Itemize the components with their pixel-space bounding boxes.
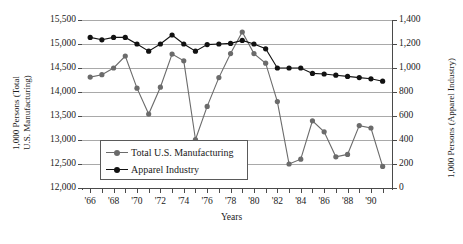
x-axis-tick-mark [348,189,349,193]
x-axis-tick-label: '86 [319,196,330,206]
data-point [357,75,362,80]
x-axis-tick-mark [301,189,302,193]
data-point [251,51,256,56]
y-axis-right-tick-label: 200 [399,159,413,169]
data-point [345,152,350,157]
data-point [310,71,315,76]
data-point [146,49,151,54]
data-point [263,46,268,51]
y-axis-right-tick-mark [393,140,397,141]
y-axis-left-tick-mark [78,116,82,117]
data-point [134,86,139,91]
series-line-1 [90,35,382,81]
data-point [251,41,256,46]
data-point [205,104,210,109]
data-point [99,37,104,42]
x-axis-tick-label: '88 [342,196,353,206]
y-axis-right-tick-mark [393,44,397,45]
data-point [286,65,291,70]
x-axis-tick-label: '90 [365,196,376,206]
data-point [111,65,116,70]
x-axis-tick-mark [160,189,161,193]
data-point [193,49,198,54]
x-axis-tick-mark [137,189,138,193]
y-axis-left-tick-label: 13,500 [50,111,76,121]
x-axis-tick-mark [172,189,173,193]
x-axis-tick-mark [195,189,196,193]
x-axis-tick-label: '70 [131,196,142,206]
x-axis-tick-mark [207,189,208,193]
y-axis-left-tick-label: 15,500 [50,15,76,25]
legend-marker-icon-1 [106,165,128,175]
x-axis-tick-mark [289,189,290,193]
x-axis-tick-label: '76 [202,196,213,206]
legend-label-1: Apparel Industry [131,165,199,175]
y-axis-right-tick-mark [393,20,397,21]
x-axis-tick-mark [383,189,384,193]
data-point [205,42,210,47]
x-axis-tick-mark [219,189,220,193]
data-point [275,65,280,70]
data-point [275,99,280,104]
x-axis-tick-mark [277,189,278,193]
x-axis-tick-label: '80 [248,196,259,206]
data-point [216,41,221,46]
data-point [286,161,291,166]
y-axis-right-tick-mark [393,68,397,69]
data-point [345,74,350,79]
data-point [240,29,245,34]
y-axis-right-tick-mark [393,164,397,165]
legend-item-apparel-industry: Apparel Industry [106,161,242,178]
y-axis-left-tick-label: 14,000 [50,87,76,97]
data-point [333,154,338,159]
y-axis-right-tick-label: 1,200 [399,39,420,49]
data-point [380,164,385,169]
data-point [111,35,116,40]
data-point [216,75,221,80]
x-axis-line [82,188,393,189]
y-axis-right-tick-label: 400 [399,135,413,145]
data-point [123,53,128,58]
x-axis-tick-mark [125,189,126,193]
y-axis-right-tick-label: 1,000 [399,63,420,73]
x-axis-tick-mark [242,189,243,193]
y-axis-right-tick-label: 1,400 [399,15,420,25]
x-axis-tick-mark [336,189,337,193]
data-point [228,41,233,46]
y-axis-right-tick-label: 0 [399,183,404,193]
data-point [298,157,303,162]
x-axis-tick-label: '68 [108,196,119,206]
x-axis-tick-label: '84 [295,196,306,206]
y-axis-right-tick-mark [393,116,397,117]
data-point [228,51,233,56]
y-axis-left-tick-mark [78,140,82,141]
y-axis-left-tick-label: 12,500 [50,159,76,169]
x-axis-tick-label: '82 [272,196,283,206]
y-axis-right-tick-label: 600 [399,111,413,121]
x-axis-tick-mark [90,189,91,193]
x-axis-tick-label: '66 [85,196,96,206]
data-point [322,71,327,76]
data-point [357,123,362,128]
x-axis-tick-mark [231,189,232,193]
y-axis-right-tick-mark [393,188,397,189]
x-axis-tick-mark [184,189,185,193]
y-axis-left-tick-mark [78,188,82,189]
legend-label-0: Total U.S. Manufacturing [131,148,234,158]
data-point [380,79,385,84]
y-axis-left-tick-label: 12,000 [50,183,76,193]
x-axis-tick-label: '72 [155,196,166,206]
data-point [240,38,245,43]
data-point [263,61,268,66]
y-axis-left-tick-mark [78,164,82,165]
data-point [368,76,373,81]
chart-legend: Total U.S. Manufacturing Apparel Industr… [100,140,248,180]
data-point [99,72,104,77]
data-point [158,41,163,46]
data-point [169,51,174,56]
y-axis-left-tick-label: 15,000 [50,39,76,49]
x-axis-tick-mark [324,189,325,193]
data-point [169,32,174,37]
data-point [123,35,128,40]
legend-marker-icon-0 [106,148,128,158]
